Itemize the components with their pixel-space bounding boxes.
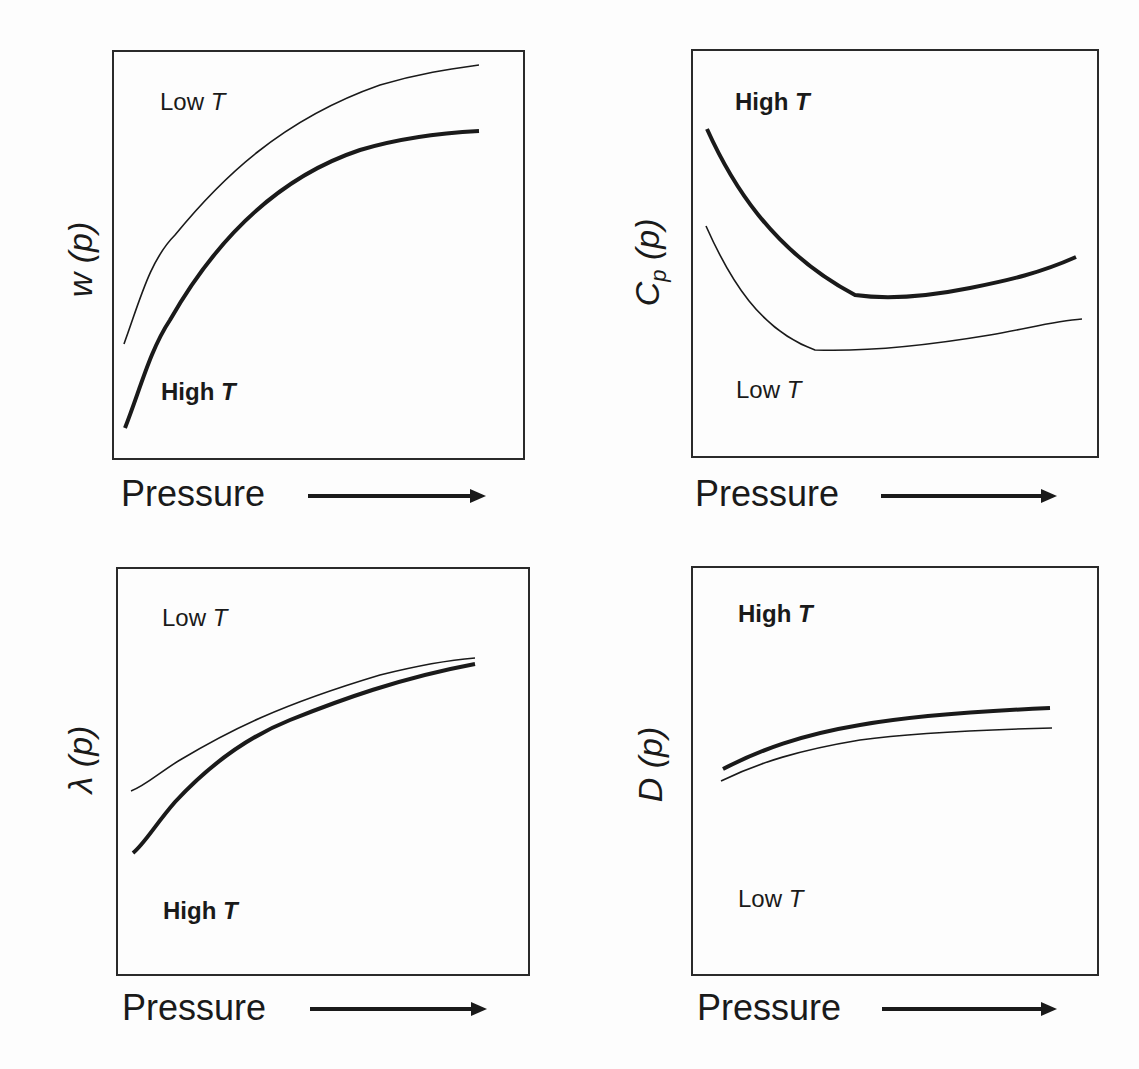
x-axis-label: Pressure: [122, 987, 266, 1029]
pressure-arrow-icon: [1041, 489, 1057, 503]
curve-label-high-t: High T: [738, 600, 813, 628]
y-axis-label: Cp (p): [628, 197, 673, 327]
curve-label-low-t: Low T: [736, 376, 801, 404]
curve-label-high-t: High T: [161, 378, 236, 406]
plot-frame: [692, 567, 1098, 975]
chart-panel-cp: Cp (p) High T Low T Pressure: [570, 0, 1139, 540]
curve-low-t: [706, 226, 1082, 350]
chart-panel-lambda: λ (p) Low T High T Pressure: [0, 540, 570, 1069]
pressure-arrow-icon: [471, 1002, 487, 1016]
chart-panel-d: D (p) High T Low T Pressure: [570, 540, 1139, 1069]
curve-label-low-t: Low T: [738, 885, 803, 913]
curve-low-t: [131, 658, 475, 791]
y-axis-label: w (p): [61, 200, 100, 320]
chart-panel-w: w (p) Low T High T Pressure: [0, 0, 570, 540]
curve-label-high-t: High T: [735, 88, 810, 116]
x-axis-label: Pressure: [697, 987, 841, 1029]
y-axis-label: D (p): [631, 705, 670, 825]
x-axis-label: Pressure: [121, 473, 265, 515]
curve-high-t: [133, 664, 475, 853]
y-axis-label: λ (p): [61, 700, 100, 820]
curve-high-t: [707, 129, 1076, 297]
pressure-arrow-icon: [470, 489, 486, 503]
curve-low-t: [721, 728, 1052, 781]
pressure-arrow-icon: [1041, 1002, 1057, 1016]
curve-label-high-t: High T: [163, 897, 238, 925]
x-axis-label: Pressure: [695, 473, 839, 515]
curve-label-low-t: Low T: [162, 604, 227, 632]
curve-label-low-t: Low T: [160, 88, 225, 116]
